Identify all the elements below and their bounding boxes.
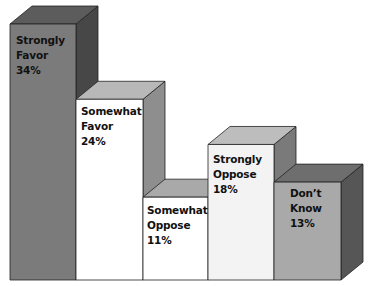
bar-chart: Strongly Favor 34% Somewhat Favor 24% So… <box>0 0 370 286</box>
bar-side-don-t-know <box>341 164 363 280</box>
bar-label-somewhat-favor: Somewhat Favor 24% <box>81 104 142 149</box>
bar-label-strongly-favor: Strongly Favor 34% <box>16 33 65 78</box>
bar-label-somewhat-oppose: Somewhat Oppose 11% <box>147 203 208 248</box>
bar-label-dont-know: Don’t Know 13% <box>290 186 322 231</box>
bar-label-strongly-oppose: Strongly Oppose 18% <box>213 152 262 197</box>
